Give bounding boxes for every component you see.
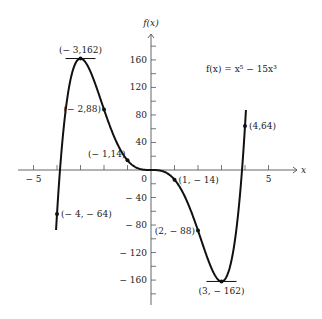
x-tick-label: − 5: [25, 174, 41, 184]
y-tick-label: 80: [136, 110, 148, 120]
y-tick-label: 160: [130, 55, 147, 65]
data-point: [79, 57, 83, 61]
data-point: [173, 178, 177, 182]
data-point: [196, 229, 200, 233]
data-point: [102, 107, 106, 111]
data-point: [243, 124, 247, 128]
y-tick-label: − 40: [125, 193, 147, 203]
y-tick-label: − 160: [119, 275, 147, 285]
point-label: (− 4, − 64): [61, 209, 112, 219]
y-tick-label: 0: [141, 174, 147, 184]
point-label: (2, − 88): [155, 226, 195, 236]
x-axis-label: x: [301, 165, 306, 175]
point-label: (3, − 162): [198, 286, 244, 296]
data-point: [55, 212, 59, 216]
point-label: (1, − 14): [179, 175, 219, 185]
point-label: (− 2,88): [64, 104, 101, 114]
y-tick-label: 120: [130, 82, 147, 92]
point-label: (− 1,14): [88, 149, 125, 159]
x-tick-label: 5: [266, 174, 272, 184]
point-label: (− 3,162): [59, 45, 102, 55]
point-labels: (− 4, − 64)(− 3,162)(− 2,88)(− 1,14)(1, …: [59, 45, 276, 297]
y-tick-label: − 120: [119, 248, 147, 258]
y-tick-label: − 80: [125, 220, 147, 230]
y-tick-label: 40: [136, 137, 148, 147]
data-point: [220, 279, 224, 283]
function-plot: − 5516012080400− 40− 80− 120− 160 (− 4, …: [0, 0, 322, 319]
point-label: (4,64): [249, 121, 276, 131]
data-point: [126, 158, 130, 162]
function-label: f(x) = x⁵ − 15x³: [206, 64, 277, 74]
y-axis-label: f(x): [142, 18, 159, 28]
